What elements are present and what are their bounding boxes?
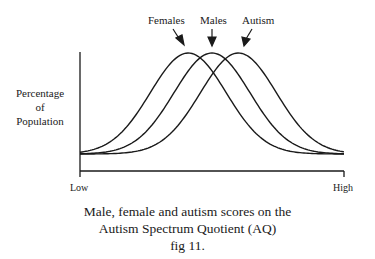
caption-line-2: Autism Spectrum Quotient (AQ)	[0, 220, 375, 237]
arrow-icons	[173, 29, 252, 46]
curve-males	[80, 53, 344, 154]
caption-line-3: fig 11.	[0, 237, 375, 254]
x-low-label: Low	[70, 182, 88, 193]
curve-autism	[80, 53, 344, 154]
caption-line-1: Male, female and autism scores on the	[0, 203, 375, 220]
curve-females	[80, 53, 344, 154]
figure-caption: Male, female and autism scores on the Au…	[0, 203, 375, 254]
x-high-label: High	[333, 182, 353, 193]
